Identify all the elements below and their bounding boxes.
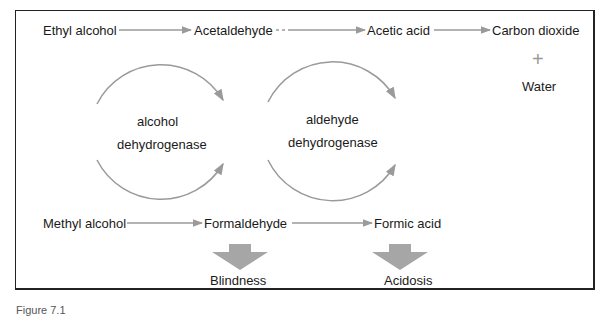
outcome-acidosis: Acidosis bbox=[384, 274, 432, 287]
node-acetaldehyde: Acetaldehyde bbox=[194, 24, 273, 37]
node-water: Water bbox=[522, 80, 556, 93]
enzyme-alcohol-dehydrogenase-line2: dehydrogenase bbox=[117, 138, 207, 151]
node-formic-acid: Formic acid bbox=[374, 217, 441, 230]
node-acetic-acid: Acetic acid bbox=[367, 24, 430, 37]
node-ethyl-alcohol: Ethyl alcohol bbox=[43, 24, 117, 37]
outcome-blindness: Blindness bbox=[210, 274, 266, 287]
block-arrow-blindness bbox=[212, 244, 268, 270]
enzyme-alcohol-dehydrogenase-line1: alcohol bbox=[137, 115, 178, 128]
node-methyl-alcohol: Methyl alcohol bbox=[43, 217, 126, 230]
cycle-arc-bottom-1 bbox=[97, 160, 223, 199]
block-arrow-acidosis bbox=[372, 244, 428, 270]
figure-caption: Figure 7.1 bbox=[16, 304, 66, 316]
node-formaldehyde: Formaldehyde bbox=[204, 217, 287, 230]
cycle-arc-top-2 bbox=[268, 62, 395, 102]
node-carbon-dioxide: Carbon dioxide bbox=[492, 24, 579, 37]
cycle-arc-bottom-2 bbox=[268, 160, 395, 201]
cycle-arc-top-1 bbox=[97, 65, 223, 104]
enzyme-aldehyde-dehydrogenase-line2: dehydrogenase bbox=[288, 136, 378, 149]
plus-sign: + bbox=[532, 49, 544, 69]
enzyme-aldehyde-dehydrogenase-line1: aldehyde bbox=[306, 113, 359, 126]
